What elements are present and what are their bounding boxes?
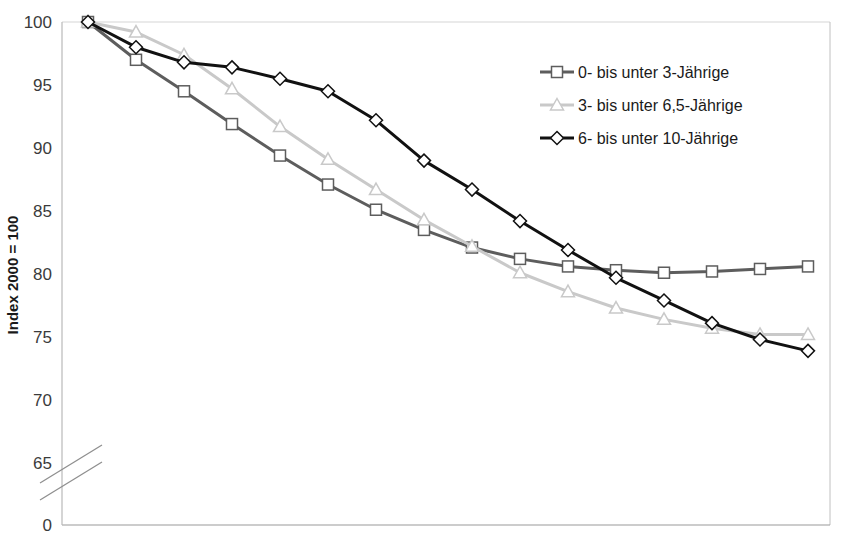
- y-tick-label: 100: [24, 13, 52, 32]
- y-tick-label: 90: [33, 139, 52, 158]
- square-marker: [755, 263, 766, 274]
- y-tick-label: 95: [33, 76, 52, 95]
- square-marker: [275, 150, 286, 161]
- square-marker: [659, 267, 670, 278]
- y-tick-label: 70: [33, 391, 52, 410]
- square-marker: [371, 204, 382, 215]
- square-marker: [707, 266, 718, 277]
- square-marker: [803, 261, 814, 272]
- square-marker: [179, 86, 190, 97]
- square-marker: [323, 179, 334, 190]
- square-marker: [227, 119, 238, 130]
- y-tick-label: 85: [33, 202, 52, 221]
- y-tick-label: 0: [43, 516, 52, 535]
- square-marker: [419, 224, 430, 235]
- square-marker: [552, 67, 563, 78]
- y-axis-title: Index 2000 = 100: [4, 216, 21, 335]
- legend-label: 6- bis unter 10-Jährige: [578, 130, 738, 147]
- square-marker: [131, 54, 142, 65]
- legend-label: 3- bis unter 6,5-Jährige: [578, 97, 743, 114]
- square-marker: [563, 261, 574, 272]
- chart-container: 100959085807570650 Index 2000 = 100 0- b…: [0, 0, 842, 545]
- y-tick-label: 75: [33, 328, 52, 347]
- square-marker: [515, 253, 526, 264]
- legend-label: 0- bis unter 3-Jährige: [578, 64, 729, 81]
- line-chart: 100959085807570650 Index 2000 = 100 0- b…: [0, 0, 842, 545]
- y-tick-label: 65: [33, 454, 52, 473]
- y-tick-label: 80: [33, 265, 52, 284]
